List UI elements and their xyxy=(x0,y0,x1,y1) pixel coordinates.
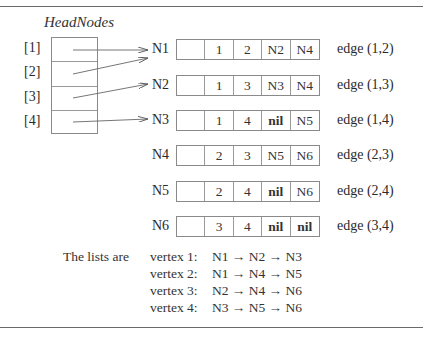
edge-label-n5: edge (2,4) xyxy=(337,183,394,199)
node-cell-path1: N5 xyxy=(262,146,290,165)
vertex-name: vertex 3: xyxy=(150,283,212,299)
headnodes-title: HeadNodes xyxy=(44,14,114,31)
node-cell-path1: nil xyxy=(262,182,290,201)
node-label-n3: N3 xyxy=(152,112,169,128)
node-cell-mark xyxy=(177,182,205,201)
node-label-n2: N2 xyxy=(152,77,169,93)
vertex-name: vertex 1: xyxy=(150,249,212,265)
node-cell-vertex2: 3 xyxy=(234,76,262,95)
edge-label-n6: edge (3,4) xyxy=(337,218,394,234)
node-cell-path1: N2 xyxy=(262,40,290,59)
node-cell-mark xyxy=(177,76,205,95)
node-cell-path2: nil xyxy=(291,217,319,236)
node-cell-mark xyxy=(177,40,205,59)
edge-label-n2: edge (1,3) xyxy=(337,77,394,93)
edge-label-n4: edge (2,3) xyxy=(337,147,394,163)
vertex-path: N2 → N4 → N6 xyxy=(212,283,302,298)
node-cell-mark xyxy=(177,217,205,236)
bottom-rule xyxy=(0,327,423,328)
node-cell-vertex1: 1 xyxy=(205,40,233,59)
node-cell-vertex2: 4 xyxy=(234,217,262,236)
vertex-list-4: vertex 4:N3 → N5 → N6 xyxy=(150,300,302,316)
node-cell-mark xyxy=(177,146,205,165)
head-index-4: [4] xyxy=(24,113,40,129)
node-cell-vertex1: 3 xyxy=(205,217,233,236)
node-cell-vertex2: 3 xyxy=(234,146,262,165)
head-index-2: [2] xyxy=(24,64,40,80)
node-cell-path1: nil xyxy=(262,217,290,236)
vertex-name: vertex 4: xyxy=(150,300,212,316)
vertex-path: N3 → N5 → N6 xyxy=(212,300,302,315)
vertex-path: N1 → N4 → N5 xyxy=(212,266,302,281)
node-label-n5: N5 xyxy=(152,183,169,199)
head-index-3: [3] xyxy=(24,89,40,105)
node-cell-path2: N4 xyxy=(291,40,319,59)
node-label-n1: N1 xyxy=(152,41,169,57)
node-n6: 3 4 nil nil xyxy=(176,216,320,237)
node-cell-path1: nil xyxy=(262,111,290,130)
top-rule xyxy=(0,6,423,7)
vertex-name: vertex 2: xyxy=(150,266,212,282)
head-cell-2 xyxy=(52,62,97,86)
node-n2: 1 3 N3 N4 xyxy=(176,75,320,96)
node-cell-vertex2: 2 xyxy=(234,40,262,59)
node-n1: 1 2 N2 N4 xyxy=(176,39,320,60)
node-cell-path2: N6 xyxy=(291,146,319,165)
node-label-n4: N4 xyxy=(152,147,169,163)
node-cell-vertex2: 4 xyxy=(234,182,262,201)
edge-label-n3: edge (1,4) xyxy=(337,112,394,128)
vertex-list-3: vertex 3:N2 → N4 → N6 xyxy=(150,283,302,299)
node-cell-mark xyxy=(177,111,205,130)
node-cell-path2: N5 xyxy=(291,111,319,130)
node-n5: 2 4 nil N6 xyxy=(176,181,320,202)
lists-label: The lists are xyxy=(63,249,129,265)
node-cell-vertex2: 4 xyxy=(234,111,262,130)
node-cell-path1: N3 xyxy=(262,76,290,95)
node-n3: 1 4 nil N5 xyxy=(176,110,320,131)
vertex-list-1: vertex 1:N1 → N2 → N3 xyxy=(150,249,302,265)
edge-label-n1: edge (1,2) xyxy=(337,41,394,57)
head-index-1: [1] xyxy=(24,40,40,56)
node-cell-path2: N6 xyxy=(291,182,319,201)
head-nodes-array xyxy=(51,37,98,134)
head-cell-4 xyxy=(52,111,97,135)
head-cell-1 xyxy=(52,38,97,62)
head-cell-3 xyxy=(52,87,97,111)
node-cell-path2: N4 xyxy=(291,76,319,95)
node-cell-vertex1: 2 xyxy=(205,182,233,201)
node-label-n6: N6 xyxy=(152,218,169,234)
vertex-path: N1 → N2 → N3 xyxy=(212,249,302,264)
node-n4: 2 3 N5 N6 xyxy=(176,145,320,166)
node-cell-vertex1: 1 xyxy=(205,111,233,130)
node-cell-vertex1: 1 xyxy=(205,76,233,95)
vertex-list-2: vertex 2:N1 → N4 → N5 xyxy=(150,266,302,282)
node-cell-vertex1: 2 xyxy=(205,146,233,165)
